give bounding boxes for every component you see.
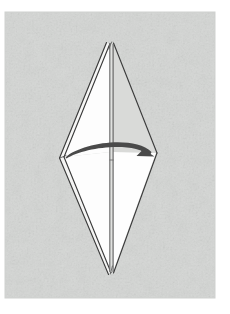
origami-diagram-figure <box>0 0 230 314</box>
origami-diagram-canvas <box>0 0 230 314</box>
